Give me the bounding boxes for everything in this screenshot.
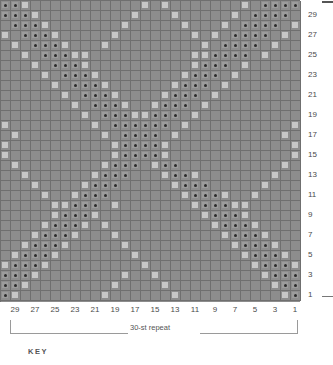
chart-cell[interactable] <box>171 211 181 221</box>
chart-cell[interactable] <box>101 211 111 221</box>
chart-cell[interactable] <box>241 81 251 91</box>
chart-cell[interactable] <box>141 121 151 131</box>
chart-cell[interactable] <box>291 121 301 131</box>
chart-cell[interactable] <box>281 181 291 191</box>
chart-cell[interactable] <box>191 191 201 201</box>
chart-cell[interactable] <box>221 231 231 241</box>
chart-cell[interactable] <box>71 21 81 31</box>
chart-cell[interactable] <box>251 171 261 181</box>
chart-cell[interactable] <box>221 81 231 91</box>
chart-cell[interactable] <box>151 271 161 281</box>
chart-cell[interactable] <box>111 11 121 21</box>
chart-cell[interactable] <box>11 221 21 231</box>
chart-cell[interactable] <box>111 171 121 181</box>
chart-cell[interactable] <box>161 121 171 131</box>
chart-cell[interactable] <box>31 171 41 181</box>
chart-cell[interactable] <box>131 291 141 301</box>
chart-cell[interactable] <box>61 291 71 301</box>
chart-cell[interactable] <box>211 191 221 201</box>
chart-cell[interactable] <box>71 11 81 21</box>
chart-cell[interactable] <box>181 221 191 231</box>
chart-cell[interactable] <box>41 111 51 121</box>
chart-cell[interactable] <box>41 221 51 231</box>
chart-cell[interactable] <box>21 221 31 231</box>
chart-cell[interactable] <box>181 21 191 31</box>
chart-cell[interactable] <box>231 21 241 31</box>
chart-cell[interactable] <box>211 291 221 301</box>
chart-cell[interactable] <box>161 51 171 61</box>
chart-cell[interactable] <box>181 91 191 101</box>
chart-cell[interactable] <box>21 171 31 181</box>
chart-cell[interactable] <box>101 11 111 21</box>
chart-cell[interactable] <box>111 241 121 251</box>
chart-cell[interactable] <box>181 181 191 191</box>
chart-cell[interactable] <box>1 41 11 51</box>
chart-cell[interactable] <box>41 51 51 61</box>
chart-cell[interactable] <box>211 221 221 231</box>
chart-cell[interactable] <box>221 71 231 81</box>
chart-cell[interactable] <box>251 1 261 11</box>
chart-cell[interactable] <box>81 291 91 301</box>
chart-cell[interactable] <box>1 111 11 121</box>
chart-cell[interactable] <box>61 51 71 61</box>
chart-cell[interactable] <box>151 281 161 291</box>
chart-cell[interactable] <box>121 221 131 231</box>
chart-cell[interactable] <box>201 171 211 181</box>
chart-cell[interactable] <box>221 51 231 61</box>
chart-cell[interactable] <box>211 151 221 161</box>
chart-cell[interactable] <box>1 141 11 151</box>
chart-cell[interactable] <box>11 111 21 121</box>
chart-cell[interactable] <box>191 151 201 161</box>
chart-cell[interactable] <box>261 1 271 11</box>
chart-cell[interactable] <box>51 81 61 91</box>
chart-cell[interactable] <box>261 41 271 51</box>
chart-cell[interactable] <box>271 271 281 281</box>
chart-cell[interactable] <box>281 241 291 251</box>
chart-cell[interactable] <box>181 291 191 301</box>
chart-cell[interactable] <box>51 111 61 121</box>
chart-cell[interactable] <box>31 101 41 111</box>
chart-cell[interactable] <box>131 281 141 291</box>
chart-cell[interactable] <box>91 81 101 91</box>
chart-cell[interactable] <box>131 81 141 91</box>
chart-cell[interactable] <box>281 41 291 51</box>
chart-cell[interactable] <box>241 51 251 61</box>
chart-cell[interactable] <box>51 141 61 151</box>
chart-cell[interactable] <box>51 11 61 21</box>
chart-cell[interactable] <box>91 21 101 31</box>
chart-cell[interactable] <box>71 281 81 291</box>
chart-cell[interactable] <box>31 281 41 291</box>
chart-cell[interactable] <box>211 251 221 261</box>
chart-cell[interactable] <box>271 181 281 191</box>
chart-cell[interactable] <box>41 71 51 81</box>
chart-cell[interactable] <box>111 261 121 271</box>
chart-cell[interactable] <box>81 111 91 121</box>
chart-cell[interactable] <box>41 251 51 261</box>
chart-cell[interactable] <box>71 171 81 181</box>
chart-cell[interactable] <box>31 31 41 41</box>
chart-cell[interactable] <box>171 51 181 61</box>
chart-cell[interactable] <box>191 31 201 41</box>
chart-cell[interactable] <box>201 11 211 21</box>
chart-cell[interactable] <box>91 271 101 281</box>
chart-cell[interactable] <box>251 261 261 271</box>
chart-cell[interactable] <box>81 31 91 41</box>
chart-cell[interactable] <box>81 281 91 291</box>
chart-cell[interactable] <box>31 21 41 31</box>
chart-cell[interactable] <box>211 101 221 111</box>
chart-cell[interactable] <box>271 101 281 111</box>
chart-cell[interactable] <box>61 231 71 241</box>
chart-cell[interactable] <box>181 191 191 201</box>
chart-cell[interactable] <box>241 291 251 301</box>
chart-cell[interactable] <box>61 181 71 191</box>
chart-cell[interactable] <box>91 151 101 161</box>
chart-cell[interactable] <box>21 21 31 31</box>
chart-cell[interactable] <box>191 201 201 211</box>
chart-cell[interactable] <box>91 91 101 101</box>
chart-cell[interactable] <box>51 101 61 111</box>
chart-cell[interactable] <box>61 111 71 121</box>
chart-cell[interactable] <box>241 11 251 21</box>
chart-cell[interactable] <box>41 241 51 251</box>
chart-cell[interactable] <box>221 131 231 141</box>
chart-cell[interactable] <box>171 181 181 191</box>
